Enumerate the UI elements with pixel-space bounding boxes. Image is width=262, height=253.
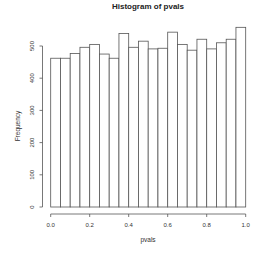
histogram-bar (80, 47, 90, 207)
x-axis-label: pvals (140, 236, 156, 244)
x-axis: 0.00.20.40.60.81.0 (47, 214, 251, 228)
histogram-bar (70, 53, 80, 207)
y-tick-label: 500 (29, 40, 35, 51)
histogram-bar (119, 33, 129, 207)
x-tick-label: 0.4 (125, 222, 134, 228)
histogram-bar (51, 58, 61, 207)
histogram-bars (51, 27, 246, 207)
histogram-bar (207, 49, 217, 207)
histogram-bar (109, 58, 119, 207)
histogram-bar (177, 44, 187, 207)
histogram-bar (60, 58, 70, 207)
x-tick-label: 0.0 (47, 222, 56, 228)
y-tick-label: 100 (29, 169, 35, 180)
y-axis-label: Frequency (14, 110, 22, 141)
x-tick-label: 1.0 (242, 222, 251, 228)
histogram-bar (197, 39, 207, 207)
histogram-bar (168, 32, 178, 207)
y-tick-label: 0 (29, 205, 35, 209)
histogram-bar (226, 39, 236, 207)
histogram-bar (129, 47, 139, 207)
histogram-bar (158, 48, 168, 207)
x-tick-label: 0.2 (86, 222, 95, 228)
histogram-bar (236, 27, 246, 207)
x-tick-label: 0.6 (164, 222, 173, 228)
histogram-bar (216, 43, 226, 207)
histogram-bar (148, 49, 158, 207)
y-tick-label: 200 (29, 137, 35, 148)
histogram-bar (187, 50, 197, 207)
y-axis: 0100200300400500 (29, 40, 43, 208)
y-tick-label: 300 (29, 105, 35, 116)
histogram-bar (99, 54, 109, 207)
histogram-chart: Histogram of pvals 0100200300400500 0.00… (0, 0, 262, 253)
chart-title: Histogram of pvals (112, 2, 185, 11)
histogram-bar (138, 41, 148, 207)
x-tick-label: 0.8 (203, 222, 212, 228)
histogram-bar (90, 44, 100, 207)
y-tick-label: 400 (29, 73, 35, 84)
